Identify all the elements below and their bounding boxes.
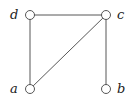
node-label-a: a bbox=[10, 81, 18, 96]
edge-a-c bbox=[30, 15, 106, 89]
node-b bbox=[102, 85, 111, 94]
node-label-c: c bbox=[117, 7, 125, 22]
node-c bbox=[102, 11, 111, 20]
graph-diagram: d c a b bbox=[0, 0, 133, 99]
node-a bbox=[26, 85, 35, 94]
labels: d c a b bbox=[10, 7, 125, 96]
node-label-b: b bbox=[117, 81, 125, 96]
edges bbox=[30, 15, 106, 89]
node-d bbox=[26, 11, 35, 20]
node-label-d: d bbox=[10, 7, 18, 22]
